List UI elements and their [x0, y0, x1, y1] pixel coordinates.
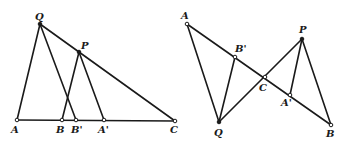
geometry-diagram: QPABB'A'C AB'CA'BQP	[0, 0, 347, 150]
point-label-B: B	[55, 124, 64, 135]
segment-Q-Bprime	[219, 57, 235, 122]
point-Q-icon	[217, 120, 221, 124]
point-C-icon	[173, 119, 177, 123]
point-label-C: C	[259, 82, 267, 93]
point-Aprime-icon	[102, 118, 106, 122]
point-Bprime-icon	[74, 118, 78, 122]
point-Bprime-icon	[233, 55, 237, 59]
point-label-Bprime: B'	[234, 43, 247, 54]
point-P-icon	[300, 37, 304, 41]
point-B-icon	[329, 123, 333, 127]
point-A-icon	[15, 118, 19, 122]
point-Q-icon	[38, 22, 42, 26]
point-label-Bprime: B'	[70, 124, 83, 135]
segment-Q-C	[40, 24, 175, 121]
segment-A-Q	[187, 24, 219, 122]
segment-A-B	[187, 24, 331, 125]
point-label-C: C	[170, 124, 178, 135]
segment-P-B	[302, 39, 331, 125]
point-label-P: P	[80, 40, 89, 51]
point-label-Q: Q	[35, 11, 44, 22]
point-label-Q: Q	[214, 127, 223, 138]
point-C-icon	[263, 75, 267, 79]
right-figure-crossed: AB'CA'BQP	[180, 10, 334, 139]
point-label-B: B	[325, 128, 334, 139]
segment-A-C	[17, 120, 175, 121]
point-label-A: A	[180, 10, 189, 21]
point-A-icon	[185, 22, 189, 26]
point-label-P: P	[298, 24, 307, 35]
segment-P-Aprime	[290, 39, 302, 95]
segment-P-Aprime	[79, 52, 104, 120]
segment-Q-P	[219, 39, 302, 122]
point-B-icon	[60, 118, 64, 122]
point-label-Aprime: A'	[97, 124, 109, 135]
segment-Q-A	[17, 24, 40, 120]
left-figure-triangle: QPABB'A'C	[10, 11, 178, 135]
point-label-Aprime: A'	[280, 97, 292, 108]
segment-P-B	[62, 52, 79, 120]
point-label-A: A	[10, 124, 19, 135]
segment-Q-Bprime	[40, 24, 76, 120]
